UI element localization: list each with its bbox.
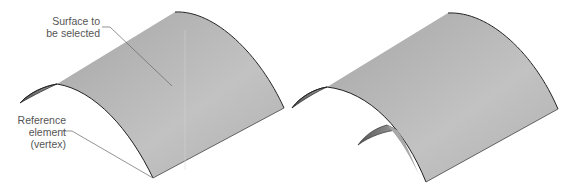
reference-label-line2: element [18,126,66,138]
reference-label-line3: (vertex) [18,138,66,150]
reference-label-line1: Reference [18,114,66,126]
right-cylindrical-surface [292,13,558,182]
surface-label-line1: Surface to [46,15,100,27]
surface-label-line2: be selected [46,27,100,39]
